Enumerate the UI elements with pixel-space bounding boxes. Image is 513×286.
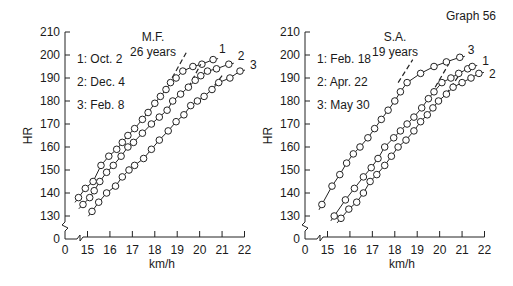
data-point-marker [443,59,450,66]
data-point-marker [163,86,170,93]
y-tick-label: 170 [40,117,60,131]
x-tick-label: 15 [81,243,95,257]
data-point-marker [125,132,132,139]
data-point-marker [177,91,184,98]
data-point-marker [425,95,432,102]
y-axis-label: HR [21,127,35,145]
series-end-label: 2 [489,67,496,81]
y-tick-label: 150 [40,163,60,177]
data-point-marker [411,128,418,135]
data-point-marker [213,66,220,73]
data-point-marker [435,98,442,105]
series-2: 2 [79,49,245,209]
x-tick-label: 17 [366,243,380,257]
axes: 0130140150160170180190200210015161718192… [21,25,251,271]
data-point-marker [119,139,126,146]
data-point-marker [390,135,397,142]
data-point-marker [381,162,388,169]
data-point-marker [350,151,357,158]
data-point-marker [388,153,395,160]
data-point-marker [375,155,382,162]
legend-entry: 3: Feb. 8 [77,98,125,112]
chart-title: M.F. [142,30,165,44]
chart-panel-2: 0130140150160170180190200210015161718192… [261,25,496,271]
data-point-marker [374,171,381,178]
series-end-label: 3 [468,43,475,57]
data-point-marker [395,144,402,151]
y-tick-label: 180 [40,94,60,108]
data-point-marker [187,102,194,109]
data-point-marker [95,199,102,206]
data-point-marker [319,201,326,208]
x-tick-label: 18 [388,243,402,257]
data-point-marker [371,125,378,132]
data-point-marker [198,72,205,79]
data-point-marker [403,137,410,144]
data-point-marker [226,61,233,68]
x-tick-label: 16 [103,243,117,257]
data-point-marker [431,63,438,70]
data-point-marker [338,215,345,222]
x-tick-label: 0 [302,243,309,257]
data-point-marker [103,190,110,197]
data-point-marker [164,107,171,114]
x-tick-label: 20 [193,243,207,257]
graph-label: Graph 56 [446,9,496,23]
data-point-marker [450,84,457,91]
data-point-marker [112,183,119,190]
data-point-marker [457,54,464,61]
x-tick-label: 22 [238,243,252,257]
y-tick-label: 200 [40,48,60,62]
x-tick-label: 20 [433,243,447,257]
data-point-marker [201,93,208,100]
data-point-marker [368,164,375,171]
x-tick-label: 21 [455,243,469,257]
data-point-marker [131,125,138,132]
data-point-marker [145,109,152,116]
data-point-marker [91,187,98,194]
data-point-marker [443,91,450,98]
data-point-marker [82,185,89,192]
deflection-line [398,60,413,83]
y-axis-break-icon [302,222,308,239]
legend: 1: Feb. 182: Apr. 223: May 30 [317,52,371,112]
data-point-marker [139,116,146,123]
data-point-marker [392,98,399,105]
y-tick-label: 170 [280,117,300,131]
data-point-marker [365,135,372,142]
x-tick-label: 0 [62,243,69,257]
data-point-marker [417,118,424,125]
data-point-marker [343,160,350,167]
y-tick-label: 160 [280,140,300,154]
data-point-marker [397,89,404,96]
series-end-label: 2 [238,49,245,63]
chart-title: S.A. [384,30,407,44]
data-point-marker [357,144,364,151]
legend-entry: 1: Oct. 2 [77,52,123,66]
data-point-marker [337,171,344,178]
data-point-marker [329,183,336,190]
series-3: 3 [319,43,475,210]
data-point-marker [125,144,132,151]
data-point-marker [210,56,217,63]
data-point-marker [181,112,188,119]
chart-panel-1: 0130140150160170180190200210015161718192… [21,25,257,271]
data-point-marker [139,130,146,137]
y-axis-break-icon [62,222,68,239]
data-point-marker [118,153,125,160]
x-tick-label: 17 [126,243,140,257]
data-point-marker [237,68,244,75]
data-point-marker [448,75,455,82]
legend-entry: 1: Feb. 18 [317,52,371,66]
data-point-marker [439,79,446,86]
data-point-marker [89,208,96,215]
legend: 1: Oct. 22: Dec. 43: Feb. 8 [77,52,125,112]
data-point-marker [469,63,476,70]
y-tick-label: 150 [280,163,300,177]
data-point-marker [331,213,338,220]
legend-entry: 2: Dec. 4 [77,75,125,89]
y-tick-label: 200 [280,48,300,62]
data-point-marker [75,194,82,201]
data-point-marker [381,144,388,151]
data-point-marker [169,98,176,105]
